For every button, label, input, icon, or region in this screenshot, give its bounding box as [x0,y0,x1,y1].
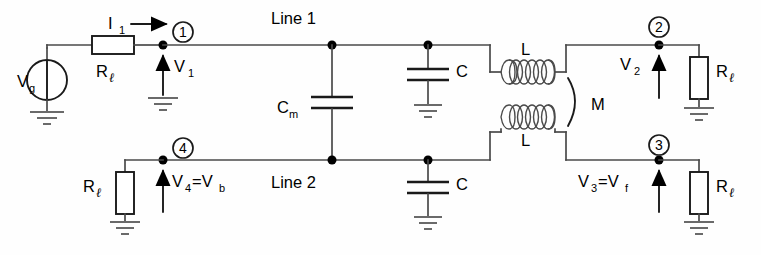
inductor-l-top-label: L [521,40,530,58]
mutual-label: M [591,95,605,113]
mutual-coupling-bracket [568,78,575,126]
resistor-rl-node2-label: R [716,62,728,80]
capacitor-c-top [407,45,449,117]
capacitor-c-bottom-label: C [456,175,468,193]
resistor-rl-node2-sublabel: ℓ [729,70,735,85]
resistor-rl-node4-sublabel: ℓ [96,185,102,200]
line2-label: Line 2 [271,173,316,191]
ground-source [30,112,64,124]
node-number-3: 3 [655,137,663,153]
capacitor-c-bottom [407,160,449,229]
capacitor-cm [311,45,353,160]
v2-sublabel: 2 [634,65,640,77]
inductor-l-bottom-label: L [521,131,530,149]
resistor-rl-node4 [110,160,163,234]
resistor-rl-node4-label: R [83,177,95,195]
current-sublabel: 1 [119,24,125,36]
node-number-4: 4 [179,140,187,156]
line1-label: Line 1 [271,9,316,27]
capacitor-c-top-label: C [456,62,468,80]
capacitor-cm-label: C [277,98,289,116]
v3-equals-label: =V [598,172,619,190]
v3-equals-sublabel: f [625,182,629,194]
resistor-rl-input-sublabel: ℓ [109,70,115,85]
resistor-rl-node3 [659,160,714,234]
v3-label: V [578,172,589,190]
v2-label: V [620,55,631,73]
v4-label: V [172,172,183,190]
source-sublabel: g [29,82,35,94]
source-label: V [17,72,28,90]
v1-sublabel: 1 [188,67,194,79]
resistor-rl-node2 [659,45,714,120]
v4-equals-label: =V [192,172,213,190]
v4-sublabel: 4 [185,182,191,194]
v3-sublabel: 3 [591,182,597,194]
v1-label: V [174,57,185,75]
v4-equals-sublabel: b [219,182,225,194]
junction-dot-cm-bottom [328,156,337,165]
resistor-rl-node3-sublabel: ℓ [729,185,735,200]
circuit-diagram: V g R ℓ I 1 1 V 1 Line 1 C [0,0,761,255]
resistor-rl-input [92,36,163,54]
node-number-2: 2 [655,19,663,35]
resistor-rl-node3-label: R [716,177,728,195]
current-label: I [108,14,113,32]
resistor-rl-input-label: R [96,62,108,80]
voltage-source [27,48,67,112]
inductor-l-bottom-wiring [490,132,659,160]
inductor-l-bottom [501,105,555,129]
inductor-l-top [501,60,555,84]
capacitor-cm-sublabel: m [289,108,298,120]
node-number-1: 1 [179,24,187,40]
